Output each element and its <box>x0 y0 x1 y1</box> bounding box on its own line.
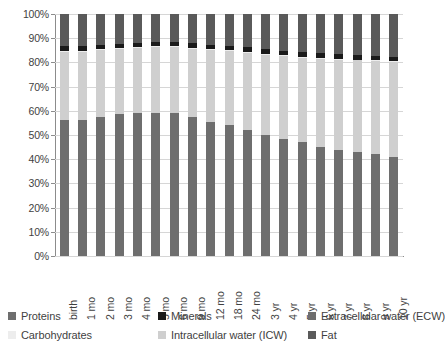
legend-label: Carbohydrates <box>21 329 92 341</box>
legend-swatch-icon <box>308 331 316 339</box>
bar-segment-intracellular-water-icw <box>78 52 87 121</box>
y-tick-label: 80% <box>3 57 49 67</box>
bar-segment-extracellular-water-ecw <box>170 113 179 256</box>
bar-segment-fat <box>316 14 325 53</box>
bar-segment-intracellular-water-icw <box>206 50 215 122</box>
bar-segment-extracellular-water-ecw <box>60 120 69 256</box>
bar-segment-extracellular-water-ecw <box>389 157 398 256</box>
bar <box>334 14 343 256</box>
y-tick-label: 40% <box>3 154 49 164</box>
bar-segment-extracellular-water-ecw <box>243 130 252 256</box>
bar-segment-extracellular-water-ecw <box>261 135 270 256</box>
bar-segment-extracellular-water-ecw <box>316 147 325 256</box>
y-tick-mark <box>51 14 55 15</box>
y-tick-label: 0% <box>3 251 49 261</box>
y-tick-label: 90% <box>3 33 49 43</box>
bar-segment-intracellular-water-icw <box>115 49 124 114</box>
bar-segment-fat <box>371 14 380 56</box>
bar-segment-fat <box>188 14 197 43</box>
bar-segment-intracellular-water-icw <box>353 60 362 151</box>
plot-area <box>55 14 403 256</box>
bar-segment-fat <box>353 14 362 55</box>
bar <box>279 14 288 256</box>
bar-segment-fat <box>78 14 87 46</box>
y-tick-label: 20% <box>3 203 49 213</box>
legend-swatch-icon <box>158 312 166 320</box>
legend-swatch-icon <box>8 331 16 339</box>
bar <box>389 14 398 256</box>
bar-segment-extracellular-water-ecw <box>115 114 124 256</box>
legend-item[interactable]: Intracellular water (ICW) <box>158 329 287 341</box>
bar-segment-fat <box>298 14 307 52</box>
bar <box>261 14 270 256</box>
bar <box>371 14 380 256</box>
bar <box>115 14 124 256</box>
bar-segment-fat <box>225 14 234 46</box>
bar-segment-intracellular-water-icw <box>334 60 343 150</box>
bar-segment-extracellular-water-ecw <box>206 122 215 256</box>
bar-segment-extracellular-water-ecw <box>371 154 380 256</box>
bar-segment-fat <box>279 14 288 51</box>
y-tick-mark <box>51 256 55 257</box>
legend-item[interactable]: Minerals <box>158 310 212 322</box>
bar <box>206 14 215 256</box>
bar-segment-intracellular-water-icw <box>96 50 105 117</box>
legend-item[interactable]: Carbohydrates <box>8 329 92 341</box>
y-tick-mark <box>51 62 55 63</box>
gridline <box>55 256 403 257</box>
bar-segment-intracellular-water-icw <box>261 55 270 135</box>
bar-segment-intracellular-water-icw <box>279 56 288 138</box>
bar <box>353 14 362 256</box>
bar-segment-intracellular-water-icw <box>316 59 325 147</box>
bar-segment-intracellular-water-icw <box>225 51 234 125</box>
y-tick-label: 60% <box>3 106 49 116</box>
legend-item[interactable]: Fat <box>308 329 337 341</box>
y-tick-mark <box>51 232 55 233</box>
bar-segment-extracellular-water-ecw <box>96 117 105 256</box>
bar <box>170 14 179 256</box>
legend-label: Fat <box>321 329 337 341</box>
y-tick-label: 100% <box>3 9 49 19</box>
bar <box>133 14 142 256</box>
bar-segment-intracellular-water-icw <box>389 62 398 156</box>
bar-segment-fat <box>389 14 398 57</box>
bar <box>60 14 69 256</box>
legend-item[interactable]: Proteins <box>8 310 61 322</box>
bar-segment-extracellular-water-ecw <box>353 152 362 256</box>
legend-swatch-icon <box>308 312 316 320</box>
bar <box>316 14 325 256</box>
bar-segment-intracellular-water-icw <box>151 47 160 113</box>
y-tick-mark <box>51 111 55 112</box>
y-tick-mark <box>51 87 55 88</box>
bar-segment-fat <box>96 14 105 45</box>
bar-segment-extracellular-water-ecw <box>334 150 343 256</box>
bar-segment-intracellular-water-icw <box>243 53 252 130</box>
bar <box>96 14 105 256</box>
y-tick-mark <box>51 135 55 136</box>
y-tick-mark <box>51 208 55 209</box>
chart-legend: ProteinsMineralsExtracellular water (ECW… <box>8 310 408 350</box>
bar <box>243 14 252 256</box>
bar <box>298 14 307 256</box>
bar-segment-extracellular-water-ecw <box>78 120 87 256</box>
y-tick-mark <box>51 183 55 184</box>
legend-label: Intracellular water (ICW) <box>171 329 287 341</box>
legend-label: Minerals <box>171 310 212 322</box>
bar-segment-extracellular-water-ecw <box>298 142 307 256</box>
bar-segment-fat <box>151 14 160 42</box>
y-tick-mark <box>51 38 55 39</box>
bar-segment-intracellular-water-icw <box>133 48 142 113</box>
bar-segment-fat <box>206 14 215 45</box>
bar-segment-extracellular-water-ecw <box>133 113 142 256</box>
bar-segment-fat <box>170 14 179 42</box>
bar-segment-intracellular-water-icw <box>188 49 197 117</box>
y-tick-label: 70% <box>3 82 49 92</box>
bar-segment-intracellular-water-icw <box>170 47 179 113</box>
y-tick-label: 30% <box>3 178 49 188</box>
legend-item[interactable]: Extracellular water (ECW) <box>308 310 445 322</box>
y-tick-label: 50% <box>3 130 49 140</box>
bar-segment-extracellular-water-ecw <box>225 125 234 256</box>
bar <box>188 14 197 256</box>
bar-segment-fat <box>334 14 343 54</box>
